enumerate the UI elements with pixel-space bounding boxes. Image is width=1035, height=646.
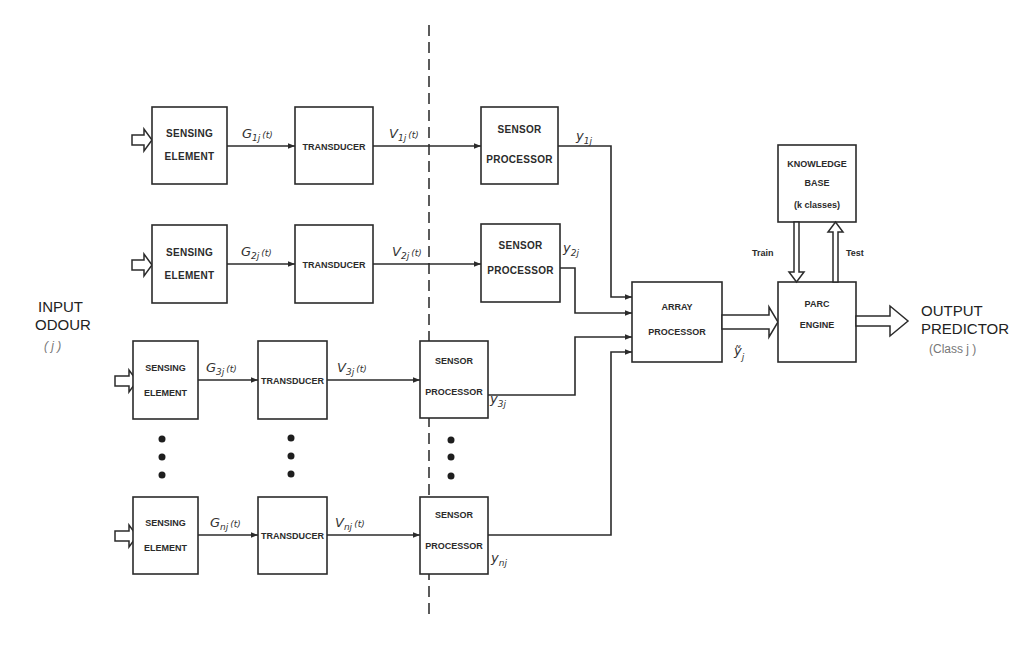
y-output-label: y2j <box>562 240 579 258</box>
transducer-label: TRANSDUCER <box>303 142 367 152</box>
array-to-parc-arrow-icon <box>722 307 778 337</box>
g-signal-label: G1j(t) <box>242 126 273 143</box>
g-signal-label: Gnj(t) <box>210 515 241 532</box>
y-output-label: y3j <box>489 391 506 409</box>
output-class-label: (Class j ) <box>929 342 976 356</box>
engine-label: ENGINE <box>800 320 835 330</box>
v-signal-label: V2j(t) <box>392 244 422 261</box>
input-arrow-icon <box>132 129 152 151</box>
processor-label: PROCESSOR <box>425 387 483 397</box>
sensor-processor-box <box>420 341 488 418</box>
sensing-element-box <box>133 341 198 419</box>
input-label-line1: INPUT <box>38 298 83 315</box>
transducer-label: TRANSDUCER <box>303 260 367 270</box>
v-signal-label: V3j(t) <box>337 360 367 377</box>
g-signal-label: G2j(t) <box>241 244 272 261</box>
base-label: BASE <box>804 178 829 188</box>
test-arrow-icon <box>828 222 843 282</box>
input-index: ( j ) <box>44 339 61 353</box>
sensor-chain-row-1: SENSING ELEMENT G1j(t) TRANSDUCER V1j(t)… <box>132 107 592 184</box>
output-arrow-icon <box>856 306 908 336</box>
sensor-processor-box <box>481 224 560 302</box>
sensor-processor-box <box>481 107 558 184</box>
input-arrow-icon <box>132 254 152 276</box>
sensor-label: SENSOR <box>435 356 474 366</box>
train-arrow-icon <box>789 222 804 282</box>
sensing-label-2: SENSING <box>166 247 213 258</box>
knowledge-label: KNOWLEDGE <box>787 159 847 169</box>
sensing-label-n: SENSING <box>145 518 186 528</box>
element-label-2: ELEMENT <box>165 270 215 281</box>
v-signal-label: Vnj(t) <box>335 515 365 532</box>
sensing-label-3: SENSING <box>145 363 186 373</box>
sensor-chain-row-3: SENSING ELEMENT G3j(t) TRANSDUCER V3j(t)… <box>115 341 506 419</box>
parc-label: PARC <box>805 299 830 309</box>
output-label-line2: PREDICTOR <box>921 320 1009 337</box>
transducer-label: TRANSDUCER <box>261 376 325 386</box>
array-processor-box <box>632 282 722 362</box>
array-output-label: ỹj <box>733 343 745 362</box>
element-label-n: ELEMENT <box>144 543 188 553</box>
transducer-label: TRANSDUCER <box>261 531 325 541</box>
element-label-1: ELEMENT <box>165 151 215 162</box>
array-input-wires <box>488 146 632 535</box>
g-signal-label: G3j(t) <box>206 360 237 377</box>
train-label: Train <box>752 248 774 258</box>
sensing-element-box <box>133 497 198 574</box>
processor-label: PROCESSOR <box>648 327 706 337</box>
y-output-label: ynj <box>490 550 507 568</box>
element-label-3: ELEMENT <box>144 388 188 398</box>
sensing-element-box <box>152 107 227 184</box>
sensor-label: SENSOR <box>497 124 542 135</box>
sensor-processor-box <box>420 497 488 574</box>
odour-sensing-block-diagram: INPUT ODOUR ( j ) SENSING ELEMENT G1j(t)… <box>0 0 1035 646</box>
processor-label: PROCESSOR <box>486 154 553 165</box>
array-label: ARRAY <box>661 302 692 312</box>
k-classes-label: (k classes) <box>794 200 840 210</box>
sensor-label: SENSOR <box>498 240 543 251</box>
sensor-label: SENSOR <box>435 510 474 520</box>
output-label-line1: OUTPUT <box>921 302 983 319</box>
sensor-chain-row-2: SENSING ELEMENT G2j(t) TRANSDUCER V2j(t)… <box>132 224 579 303</box>
sensing-element-box <box>152 225 227 303</box>
y-output-label: y1j <box>575 128 592 146</box>
processor-label: PROCESSOR <box>487 265 554 276</box>
test-label: Test <box>846 248 864 258</box>
input-label-line2: ODOUR <box>35 316 91 333</box>
sensing-label-1: SENSING <box>166 128 213 139</box>
processor-label: PROCESSOR <box>425 541 483 551</box>
ellipsis-dots <box>159 435 455 480</box>
v-signal-label: V1j(t) <box>389 126 419 143</box>
sensor-chain-row-n: SENSING ELEMENT Gnj(t) TRANSDUCER Vnj(t)… <box>115 497 507 574</box>
